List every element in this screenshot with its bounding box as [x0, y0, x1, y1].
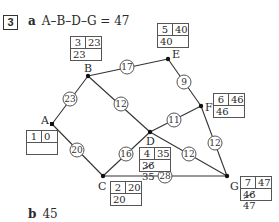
order: 5 — [158, 24, 173, 35]
node-box-E: 540 40 — [157, 23, 189, 48]
vertex-E — [166, 57, 170, 61]
part-b: b45 — [28, 207, 58, 222]
node-label-E: E — [172, 49, 180, 60]
order: 7 — [241, 177, 256, 188]
order: 3 — [71, 37, 86, 48]
svg-text:20: 20 — [71, 145, 83, 155]
early-time: 35 — [155, 148, 170, 159]
weight-F-G: 12 — [208, 136, 222, 150]
svg-text:16: 16 — [120, 149, 132, 159]
order: 6 — [214, 94, 229, 105]
part-b-answer: 45 — [42, 207, 57, 221]
svg-text:12: 12 — [115, 99, 126, 109]
early-time: 47 — [256, 177, 271, 188]
vertex-C — [101, 174, 105, 178]
node-box-A: 10 — [26, 130, 58, 155]
order: 4 — [140, 148, 155, 159]
weight-B-D: 12 — [114, 97, 128, 111]
late-time: 35 — [142, 171, 155, 182]
weight-E-F: 9 — [177, 75, 191, 89]
early-time: 0 — [42, 131, 57, 142]
svg-text:9: 9 — [181, 77, 187, 87]
vertex-F — [199, 104, 203, 108]
early-time: 40 — [173, 24, 188, 35]
late-time: 23 — [71, 49, 101, 60]
svg-text:12: 12 — [183, 149, 194, 159]
svg-text:17: 17 — [121, 62, 133, 72]
node-label-B: B — [84, 63, 92, 74]
late-time-struck: 46 — [243, 189, 256, 200]
node-label-D: D — [146, 136, 155, 147]
vertex-G — [225, 174, 229, 178]
early-time: 20 — [126, 182, 141, 193]
svg-text:28: 28 — [159, 171, 171, 181]
order: 2 — [111, 182, 126, 193]
node-label-F: F — [205, 102, 213, 113]
vertex-A — [50, 122, 54, 126]
node-box-F: 646 46 — [213, 93, 245, 118]
node-box-B: 323 23 — [70, 36, 102, 61]
weight-B-E: 17 — [120, 60, 134, 74]
late-time: 20 — [111, 194, 141, 205]
early-time: 46 — [229, 94, 244, 105]
node-label-A: A — [41, 115, 49, 126]
weight-A-C: 20 — [70, 143, 84, 157]
weight-D-F: 11 — [167, 113, 181, 127]
early-time: 23 — [86, 37, 101, 48]
late-time: 46 — [214, 106, 244, 117]
late-time-struck: 36 — [142, 160, 155, 171]
node-box-G: 747 46 47 — [240, 176, 272, 201]
late-time: 40 — [158, 36, 188, 47]
node-label-G: G — [230, 181, 239, 192]
node-box-D: 435 36 35 — [139, 147, 171, 172]
order: 1 — [27, 131, 42, 142]
svg-text:12: 12 — [209, 138, 220, 148]
svg-text:11: 11 — [168, 115, 179, 125]
part-b-label: b — [28, 207, 36, 221]
node-label-C: C — [98, 181, 106, 192]
late-time — [27, 143, 57, 154]
late-time: 47 — [243, 200, 256, 211]
weight-A-B: 23 — [63, 92, 77, 106]
vertex-D — [148, 130, 152, 134]
node-box-C: 220 20 — [110, 181, 142, 206]
weight-C-D: 16 — [119, 147, 133, 161]
svg-text:23: 23 — [64, 94, 76, 104]
weight-D-G: 12 — [182, 147, 196, 161]
